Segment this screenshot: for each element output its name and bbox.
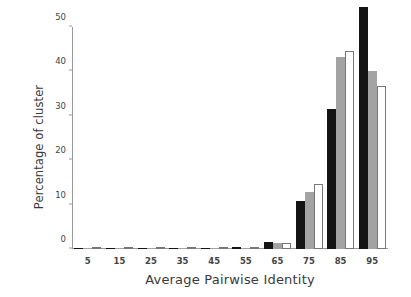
bar-group: [264, 27, 291, 249]
bar: [250, 247, 259, 249]
bar: [264, 242, 273, 249]
bar-group: [169, 27, 196, 249]
bar: [147, 248, 156, 249]
x-tick-label: 75: [303, 256, 315, 266]
y-tick-mark: [69, 203, 72, 204]
bar: [92, 247, 101, 249]
x-tick-label: 25: [145, 256, 157, 266]
bar: [124, 247, 133, 249]
y-tick-label: 10: [55, 190, 72, 200]
x-tick-label: 85: [335, 256, 347, 266]
y-tick-mark: [69, 70, 72, 71]
bar: [156, 247, 165, 249]
y-tick-mark: [69, 159, 72, 160]
x-axis-title: Average Pairwise Identity: [60, 272, 400, 287]
bar: [327, 109, 336, 249]
y-tick-mark: [69, 114, 72, 115]
bar: [282, 243, 291, 249]
y-tick-label: 40: [55, 56, 72, 66]
bar: [305, 192, 314, 249]
y-axis-title: Percentage of cluster: [32, 47, 46, 247]
y-tick-label: 20: [55, 145, 72, 155]
bar: [74, 248, 83, 249]
y-tick-label: 50: [55, 12, 72, 22]
x-tick-label: 5: [85, 256, 91, 266]
x-tick-label: 15: [113, 256, 125, 266]
bar: [345, 51, 354, 249]
y-tick-mark: [69, 248, 72, 249]
bar: [83, 248, 92, 249]
bar: [219, 247, 228, 249]
plot-area: 01020304050 5152535455565758595: [72, 24, 388, 249]
bar: [377, 86, 386, 249]
x-tick-label: 95: [366, 256, 378, 266]
bar-group: [74, 27, 101, 249]
bar: [359, 7, 368, 249]
chart-figure: Percentage of cluster Average Pairwise I…: [0, 0, 411, 297]
x-tick-label: 35: [177, 256, 189, 266]
x-tick-label: 65: [271, 256, 283, 266]
bar: [314, 184, 323, 249]
bar-group: [138, 27, 165, 249]
bar: [169, 248, 178, 249]
x-tick-label: 45: [208, 256, 220, 266]
bar: [210, 248, 219, 249]
bar-group: [327, 27, 354, 249]
bar: [106, 248, 115, 249]
y-axis-line: [72, 27, 73, 249]
bar-group: [359, 27, 386, 249]
bar-group: [296, 27, 323, 249]
y-tick-mark: [69, 26, 72, 27]
bar-group: [106, 27, 133, 249]
bar: [241, 248, 250, 249]
bar: [201, 248, 210, 249]
bar: [296, 201, 305, 249]
bar: [273, 243, 282, 249]
bar: [115, 248, 124, 249]
y-tick-label: 30: [55, 101, 72, 111]
y-tick-label: 0: [61, 234, 72, 244]
bar: [368, 71, 377, 249]
x-tick-label: 55: [240, 256, 252, 266]
bar-group: [232, 27, 259, 249]
bar: [187, 247, 196, 249]
bar: [336, 57, 345, 249]
bar: [138, 248, 147, 249]
bar: [178, 248, 187, 249]
bar: [232, 247, 241, 249]
bar-group: [201, 27, 228, 249]
